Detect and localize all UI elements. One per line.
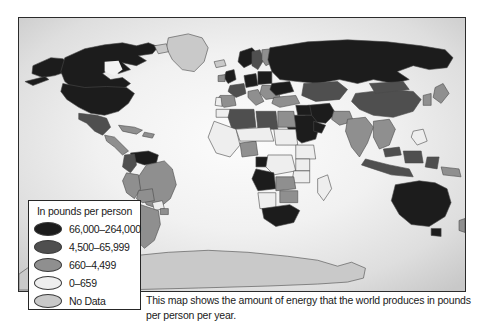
country-nigeria [240,141,258,157]
legend-swatch-medium [34,258,62,272]
legend-swatch-no-data [34,294,62,308]
figure-page: In pounds per person 66,000–264,000 4,50… [0,0,484,336]
country-egypt [278,111,296,127]
legend-label-medium: 660–4,499 [69,259,116,271]
country-ireland [218,75,225,82]
country-kazakhstan [302,82,348,102]
country-algeria [228,109,256,129]
country-malaysia [383,147,401,157]
country-zambia [276,177,296,191]
legend-title: In pounds per person [34,205,135,217]
figure-caption: This map shows the amount of energy that… [146,293,472,323]
country-sudan [274,129,298,145]
legend-item-no-data: No Data [34,292,135,310]
country-portugal [215,97,222,106]
legend-swatch-low [34,276,62,290]
country-libya [256,111,278,129]
country-ethiopia [296,145,316,159]
legend-swatch-high [34,240,62,254]
legend-item-high: 4,500–65,999 [34,238,135,256]
country-uruguay [160,209,168,215]
legend-item-very-high: 66,000–264,000 [34,220,135,238]
legend-label-low: 0–659 [69,277,97,289]
country-indonesia-sulawesi [425,157,439,169]
country-morocco [216,109,230,117]
legend-label-no-data: No Data [69,295,105,307]
country-indonesia-borneo [403,151,423,163]
map-legend: In pounds per person 66,000–264,000 4,50… [28,200,141,310]
country-germany [244,74,258,88]
legend-label-high: 4,500–65,999 [69,241,130,253]
country-zimbabwe [280,191,298,203]
legend-item-low: 0–659 [34,274,135,292]
region-korea [423,93,431,105]
country-iraq [296,105,312,115]
country-namibia [258,193,276,209]
legend-swatch-very-high [34,222,62,236]
country-new-zealand [459,219,465,233]
country-kenya [296,159,310,171]
legend-label-very-high: 66,000–264,000 [69,223,141,235]
country-poland [258,72,272,85]
region-sahel [236,127,274,141]
legend-item-medium: 660–4,499 [34,256,135,274]
island-tasmania [431,228,441,236]
